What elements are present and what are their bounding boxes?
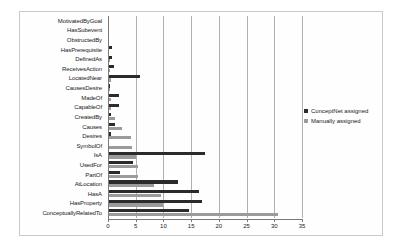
bar-row xyxy=(108,64,302,74)
bar-partof-1 xyxy=(108,175,138,178)
bar-row xyxy=(108,199,302,209)
bar-conceptuallyrelatedto-0 xyxy=(108,209,189,212)
x-tick-35 xyxy=(302,219,303,222)
bar-row xyxy=(108,16,302,26)
y-axis-label-hasprerequisite: HasPrerequisite xyxy=(19,45,105,55)
legend-swatch-icon-0 xyxy=(304,109,308,113)
y-axis-line xyxy=(108,16,109,219)
x-tick-label-30: 30 xyxy=(271,223,278,229)
y-axis-label-motivatedbygoal: MotivatedByGoal xyxy=(19,16,105,26)
bar-row xyxy=(108,189,302,199)
chart-legend: ConceptNet assignedManually assigned xyxy=(304,108,368,124)
y-axis-label-desires: Desires xyxy=(19,131,105,141)
x-tick-10 xyxy=(163,219,164,222)
bar-isa-0 xyxy=(108,152,205,155)
bar-atlocation-1 xyxy=(108,184,154,187)
y-axis-label-hasa: HasA xyxy=(19,189,105,199)
plot-area xyxy=(108,16,302,218)
x-tick-0 xyxy=(108,219,109,222)
bar-row xyxy=(108,45,302,55)
legend-label-1: Manually assigned xyxy=(311,118,361,124)
x-tick-label-10: 10 xyxy=(160,223,167,229)
y-axis-label-hasproperty: HasProperty xyxy=(19,199,105,209)
y-axis-label-atlocation: AtLocation xyxy=(19,179,105,189)
y-axis-label-causes: Causes xyxy=(19,122,105,132)
y-axis-label-definedas: DefinedAs xyxy=(19,54,105,64)
bar-createdby-1 xyxy=(108,117,115,120)
bar-row xyxy=(108,54,302,64)
bar-hasa-0 xyxy=(108,190,199,193)
y-axis-category-labels: MotivatedByGoalHasSubeventObstructedByHa… xyxy=(19,16,105,218)
bar-rows xyxy=(108,16,302,218)
bar-row xyxy=(108,179,302,189)
y-axis-label-usedfor: UsedFor xyxy=(19,160,105,170)
y-axis-label-symbolof: SymbolOf xyxy=(19,141,105,151)
x-axis-ticks xyxy=(108,219,302,222)
bar-row xyxy=(108,35,302,45)
y-axis-label-hassubevent: HasSubevent xyxy=(19,26,105,36)
y-axis-label-obstructedby: ObstructedBy xyxy=(19,35,105,45)
y-axis-label-partof: PartOf xyxy=(19,170,105,180)
y-axis-label-isa: IsA xyxy=(19,151,105,161)
bar-isa-1 xyxy=(108,155,136,158)
bar-atlocation-0 xyxy=(108,180,178,183)
x-tick-25 xyxy=(247,219,248,222)
bar-usedfor-1 xyxy=(108,165,138,168)
legend-item-1: Manually assigned xyxy=(304,118,368,124)
bar-row xyxy=(108,151,302,161)
legend-item-0: ConceptNet assigned xyxy=(304,108,368,114)
x-tick-label-35: 35 xyxy=(299,223,306,229)
bar-row xyxy=(108,160,302,170)
x-tick-5 xyxy=(136,219,137,222)
bar-locatednear-0 xyxy=(108,75,140,78)
y-axis-label-capableof: CapableOf xyxy=(19,102,105,112)
legend-swatch-icon-1 xyxy=(304,119,308,123)
bar-capableof-0 xyxy=(108,104,119,107)
bar-usedfor-0 xyxy=(108,161,133,164)
x-tick-label-5: 5 xyxy=(134,223,137,229)
x-tick-20 xyxy=(219,219,220,222)
bar-row xyxy=(108,141,302,151)
bar-symbolof-1 xyxy=(108,146,132,149)
x-axis-tick-labels: 05101520253035 xyxy=(108,223,302,233)
bar-row xyxy=(108,102,302,112)
bar-madeof-0 xyxy=(108,94,119,97)
x-tick-30 xyxy=(274,219,275,222)
bar-row xyxy=(108,170,302,180)
bar-conceptuallyrelatedto-1 xyxy=(108,213,278,216)
y-axis-label-madeof: MadeOf xyxy=(19,93,105,103)
bar-row xyxy=(108,208,302,218)
y-axis-label-createdby: CreatedBy xyxy=(19,112,105,122)
bar-row xyxy=(108,112,302,122)
y-axis-label-causesdesire: CausesDesire xyxy=(19,83,105,93)
x-tick-label-15: 15 xyxy=(188,223,195,229)
bar-row xyxy=(108,26,302,36)
bar-desires-1 xyxy=(108,136,131,139)
bar-row xyxy=(108,131,302,141)
y-axis-label-locatednear: LocatedNear xyxy=(19,74,105,84)
chart-page: MotivatedByGoalHasSubeventObstructedByHa… xyxy=(0,0,401,251)
bar-row xyxy=(108,122,302,132)
legend-label-0: ConceptNet assigned xyxy=(311,108,368,114)
bar-row xyxy=(108,83,302,93)
bar-partof-0 xyxy=(108,171,120,174)
x-tick-15 xyxy=(191,219,192,222)
y-axis-label-conceptuallyrelatedto: ConceptuallyRelatedTo xyxy=(19,208,105,218)
bar-row xyxy=(108,93,302,103)
x-tick-label-25: 25 xyxy=(243,223,250,229)
bar-hasa-1 xyxy=(108,194,161,197)
bar-hasproperty-1 xyxy=(108,203,163,206)
x-tick-label-20: 20 xyxy=(216,223,223,229)
bar-hasproperty-0 xyxy=(108,200,202,203)
y-axis-label-receivesaction: ReceivesAction xyxy=(19,64,105,74)
x-tick-label-0: 0 xyxy=(106,223,109,229)
bar-causes-1 xyxy=(108,127,122,130)
bar-row xyxy=(108,74,302,84)
